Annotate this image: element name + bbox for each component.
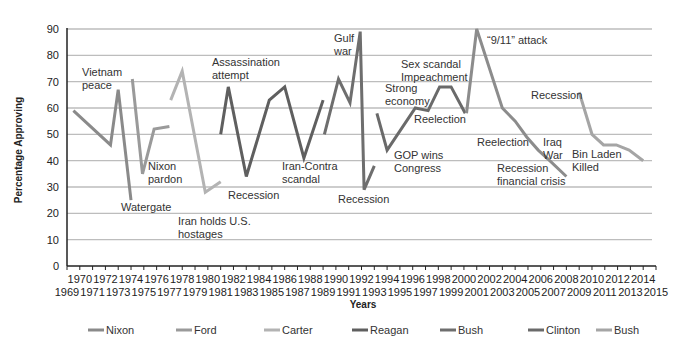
event-annotation: Reelection — [414, 113, 466, 125]
x-tick-label: 2007 — [541, 286, 565, 298]
x-tick-label: 1986 — [272, 273, 296, 285]
event-annotation: Recession — [531, 89, 582, 101]
x-tick-label: 2005 — [516, 286, 540, 298]
event-annotation: “9/11” attack — [487, 34, 548, 46]
event-annotation: Vietnampeace — [82, 66, 122, 91]
x-tick-label: 1989 — [311, 286, 335, 298]
x-tick-label: 2008 — [554, 273, 578, 285]
x-tick-label: 1996 — [400, 273, 424, 285]
x-tick-label: 2012 — [605, 273, 629, 285]
legend-label: Carter — [282, 324, 313, 336]
y-tick-label: 0 — [53, 260, 59, 272]
legend-label: Nixon — [106, 324, 134, 336]
event-annotations: VietnampeaceWatergateNixonpardonIran hol… — [82, 32, 622, 240]
event-annotation: Nixonpardon — [148, 160, 182, 185]
x-tick-label: 1997 — [413, 286, 437, 298]
x-tick-label: 1978 — [170, 273, 194, 285]
x-tick-label: 2010 — [580, 273, 604, 285]
legend-item-nixon: Nixon — [88, 324, 134, 336]
x-tick-label: 1979 — [183, 286, 207, 298]
y-axis-tick-labels: 0102030405060708090 — [47, 23, 59, 272]
x-tick-label: 1980 — [196, 273, 220, 285]
x-tick-label: 2003 — [490, 286, 514, 298]
x-tick-label: 1983 — [234, 286, 258, 298]
x-tick-label: 1987 — [285, 286, 309, 298]
presidential-approval-chart: 0102030405060708090 19701972197419761978… — [0, 0, 698, 350]
x-tick-label: 1977 — [157, 286, 181, 298]
legend-label: Reagan — [370, 324, 409, 336]
x-tick-label: 1972 — [93, 273, 117, 285]
event-annotation: Gulfwar — [333, 32, 355, 57]
event-annotation: Iran holds U.S.hostages — [178, 215, 251, 240]
y-tick-label: 20 — [47, 207, 59, 219]
legend-item-reagan: Reagan — [352, 324, 409, 336]
legend: NixonFordCarterReaganBushClintonBush — [88, 324, 639, 336]
x-tick-label: 2002 — [477, 273, 501, 285]
x-axis-ticks: 1970197219741976197819801982198419861988… — [55, 266, 668, 298]
x-tick-label: 2004 — [503, 273, 527, 285]
x-tick-label: 1969 — [55, 286, 79, 298]
event-annotation: Assassinationattempt — [212, 56, 280, 81]
x-tick-label: 2011 — [593, 286, 617, 298]
event-annotation: Recession — [338, 193, 389, 205]
legend-label: Bush — [614, 324, 639, 336]
legend-item-bush: Bush — [596, 324, 639, 336]
event-annotation: Watergate — [121, 201, 171, 213]
legend-label: Clinton — [546, 324, 580, 336]
legend-item-clinton: Clinton — [528, 324, 580, 336]
x-tick-label: 1992 — [349, 273, 373, 285]
x-tick-label: 2009 — [567, 286, 591, 298]
event-annotation: IraqWar — [543, 136, 563, 161]
x-tick-label: 1973 — [106, 286, 130, 298]
x-tick-label: 2006 — [529, 273, 553, 285]
series-line-nixon — [73, 90, 131, 201]
x-axis-title: Years — [350, 299, 377, 310]
event-annotation: Iran-Contrascandal — [282, 160, 339, 185]
y-tick-label: 90 — [47, 23, 59, 35]
y-axis-title: Percentage Approving — [13, 97, 24, 203]
y-tick-label: 30 — [47, 181, 59, 193]
event-annotation: Reelection — [477, 136, 529, 148]
x-tick-label: 1984 — [247, 273, 271, 285]
x-tick-label: 1995 — [388, 286, 412, 298]
y-tick-label: 10 — [47, 234, 59, 246]
legend-item-bush: Bush — [440, 324, 483, 336]
x-tick-label: 1976 — [144, 273, 168, 285]
y-tick-label: 50 — [47, 128, 59, 140]
y-tick-label: 80 — [47, 49, 59, 61]
x-tick-label: 1998 — [426, 273, 450, 285]
y-tick-label: 70 — [47, 76, 59, 88]
x-tick-label: 2001 — [464, 286, 488, 298]
x-tick-label: 1982 — [221, 273, 245, 285]
x-tick-label: 1988 — [298, 273, 322, 285]
x-tick-label: 1993 — [362, 286, 386, 298]
x-tick-label: 1991 — [336, 286, 360, 298]
x-tick-label: 1985 — [260, 286, 284, 298]
x-tick-label: 2014 — [631, 273, 655, 285]
x-tick-label: 1971 — [80, 286, 104, 298]
x-tick-label: 1975 — [132, 286, 156, 298]
event-annotation: Recession — [228, 189, 279, 201]
legend-item-carter: Carter — [264, 324, 313, 336]
event-annotation: Sex scandalImpeachment — [401, 58, 468, 83]
legend-label: Bush — [458, 324, 483, 336]
x-tick-label: 2015 — [644, 286, 668, 298]
y-tick-label: 60 — [47, 102, 59, 114]
x-tick-label: 1999 — [439, 286, 463, 298]
legend-label: Ford — [194, 324, 217, 336]
y-tick-label: 40 — [47, 155, 59, 167]
x-tick-label: 1990 — [324, 273, 348, 285]
x-tick-label: 2013 — [618, 286, 642, 298]
x-tick-label: 2000 — [452, 273, 476, 285]
x-tick-label: 1974 — [119, 273, 143, 285]
x-tick-label: 1994 — [375, 273, 399, 285]
x-tick-label: 1981 — [208, 286, 232, 298]
legend-item-ford: Ford — [176, 324, 217, 336]
x-tick-label: 1970 — [68, 273, 92, 285]
event-annotation: GOP winsCongress — [394, 149, 444, 174]
event-annotation: Strongeconomy — [385, 82, 430, 107]
